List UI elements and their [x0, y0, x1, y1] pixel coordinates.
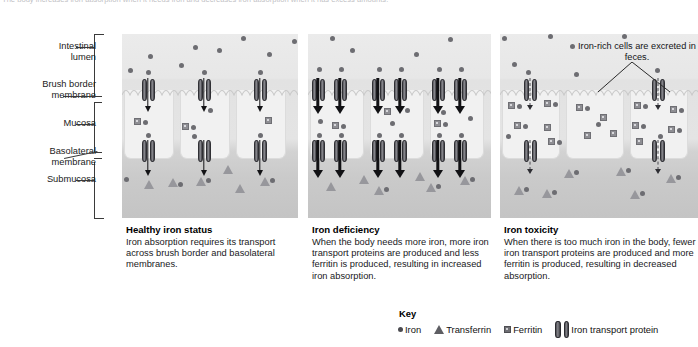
ferritin-molecule: [634, 102, 641, 109]
key-item-iron: Iron: [398, 324, 421, 336]
iron-molecule: [241, 36, 246, 41]
circle-icon: [398, 327, 403, 332]
transferrin-molecule: [542, 189, 552, 198]
iron-transport-protein: [524, 79, 537, 101]
iron-molecule: [441, 110, 446, 115]
iron-molecule: [146, 133, 151, 138]
iron-molecule: [206, 178, 211, 183]
iron-molecule: [399, 133, 404, 138]
iron-molecule: [339, 67, 344, 72]
iron-molecule: [677, 128, 682, 133]
key-item-transferrin: Transferrin: [434, 324, 491, 336]
iron-molecule: [570, 44, 575, 49]
iron-molecule: [626, 168, 631, 173]
panel-iron-toxicity: Iron toxicity When there is too much iro…: [500, 34, 698, 330]
epithelial-cell: [566, 90, 624, 159]
panel-title-deficiency: Iron deficiency: [312, 224, 490, 236]
panel-body-deficiency: When the body needs more iron, more iron…: [312, 237, 490, 282]
iron-molecule: [143, 120, 148, 125]
panel-iron-deficiency: Iron deficiency When the body needs more…: [308, 34, 491, 330]
transferrin-molecule: [630, 190, 640, 199]
iron-molecule: [437, 67, 442, 72]
ferritin-molecule: [434, 120, 441, 127]
panel-body-healthy: Iron absorption requires its transport a…: [126, 237, 296, 271]
iron-molecule: [270, 178, 275, 183]
ferritin-molecule: [576, 104, 583, 111]
ferritin-molecule: [610, 130, 617, 137]
iron-molecule: [459, 133, 464, 138]
iron-molecule: [292, 39, 297, 44]
intro-sentence: The body increases iron absorption when …: [2, 0, 692, 4]
transferrin-molecule: [415, 172, 425, 181]
iron-molecule: [557, 140, 562, 145]
iron-molecule: [643, 104, 648, 109]
iron-molecule: [405, 108, 410, 113]
iron-molecule: [191, 125, 196, 130]
tick-brush-bottom: [94, 102, 102, 103]
transferrin-molecule: [514, 186, 524, 195]
key-label-transferrin: Transferrin: [446, 324, 491, 336]
iron-molecule: [676, 175, 681, 180]
iron-molecule: [459, 67, 464, 72]
scene-healthy: [122, 34, 298, 218]
panel-body-toxicity: When there is too much iron in the body,…: [504, 237, 697, 282]
bracket-submucosa: [94, 162, 95, 218]
iron-molecule: [390, 121, 395, 126]
lead-mucosa: [76, 124, 94, 125]
ferritin-molecule: [670, 106, 677, 113]
key-label-ferritin: Ferritin: [513, 324, 542, 336]
iron-molecule: [640, 191, 645, 196]
iron-molecule: [526, 70, 531, 75]
iron-molecule: [655, 68, 660, 73]
transferrin-molecule: [426, 183, 436, 192]
iron-molecule: [341, 124, 346, 129]
ferritin-molecule: [332, 122, 339, 129]
key-label-iron: Iron: [405, 324, 421, 336]
transferrin-molecule: [223, 165, 233, 174]
iron-molecule: [208, 108, 213, 113]
transferrin-molecule: [564, 169, 574, 178]
iron-molecule: [553, 102, 558, 107]
iron-molecule: [436, 184, 441, 189]
ferritin-molecule: [544, 100, 551, 107]
iron-molecule: [148, 54, 153, 59]
key-title: Key: [399, 308, 416, 319]
iron-molecule: [128, 68, 133, 73]
iron-molecule: [596, 122, 601, 127]
iron-molecule: [124, 177, 129, 182]
caption-deficiency: Iron deficiency When the body needs more…: [312, 224, 490, 282]
ferritin-molecule: [600, 114, 607, 121]
lead-brush-border: [63, 96, 94, 97]
triangle-icon: [434, 325, 444, 334]
iron-molecule: [641, 124, 646, 129]
key-items: Iron Transferrin Ferritin Iron transport…: [398, 321, 658, 338]
iron-molecule: [524, 187, 529, 192]
left-axis-labels: Intestinal lumen Brush border membrane M…: [0, 34, 122, 218]
lead-submucosa: [76, 180, 94, 181]
key-item-iron-transport-protein: Iron transport protein: [555, 321, 658, 338]
label-brush-border-membrane: Brush border membrane: [42, 79, 96, 101]
iron-molecule: [330, 36, 335, 41]
iron-transport-protein: [652, 140, 665, 162]
key-item-ferritin: Ferritin: [504, 324, 542, 336]
iron-molecule: [679, 108, 684, 113]
iron-molecule: [502, 36, 507, 41]
scene-deficiency: [308, 34, 491, 218]
iron-molecule: [317, 133, 322, 138]
iron-molecule: [548, 34, 553, 39]
iron-molecule: [258, 133, 263, 138]
iron-molecule: [470, 177, 475, 182]
annotation-iron-rich-cells-feces: Iron-rich cells are excreted in feces.: [578, 41, 696, 63]
iron-molecule: [574, 170, 579, 175]
iron-molecule: [574, 72, 579, 77]
key-legend: Key Iron Transferrin Ferritin Iron trans…: [0, 308, 698, 347]
square-icon: [504, 326, 511, 333]
iron-molecule: [414, 52, 419, 57]
iron-molecule: [437, 133, 442, 138]
iron-molecule: [318, 119, 323, 124]
transferrin-molecule: [326, 182, 336, 191]
iron-molecule: [192, 134, 197, 139]
iron-molecule: [179, 63, 184, 68]
iron-molecule: [178, 182, 183, 187]
iron-molecule: [258, 70, 263, 75]
